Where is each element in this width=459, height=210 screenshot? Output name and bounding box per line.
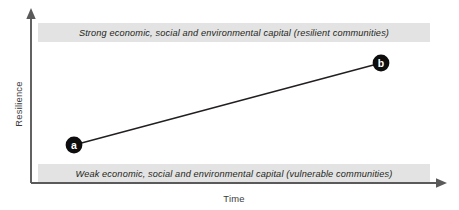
trend-line bbox=[74, 63, 381, 145]
x-axis-label: Time bbox=[223, 193, 244, 204]
resilience-time-figure: Strong economic, social and environmenta… bbox=[0, 0, 459, 210]
data-point-a-label: a bbox=[71, 139, 77, 151]
arrow-right-icon bbox=[436, 178, 447, 187]
top-band-label: Strong economic, social and environmenta… bbox=[79, 28, 389, 38]
data-point-b-label: b bbox=[378, 57, 384, 69]
data-point-b[interactable]: b bbox=[373, 55, 390, 72]
bottom-band-label: Weak economic, social and environmental … bbox=[75, 169, 392, 179]
data-point-a[interactable]: a bbox=[66, 137, 83, 154]
chart-canvas: Strong economic, social and environmenta… bbox=[0, 0, 459, 210]
arrow-up-icon bbox=[26, 8, 35, 19]
y-axis-label: Resilience bbox=[13, 81, 24, 126]
